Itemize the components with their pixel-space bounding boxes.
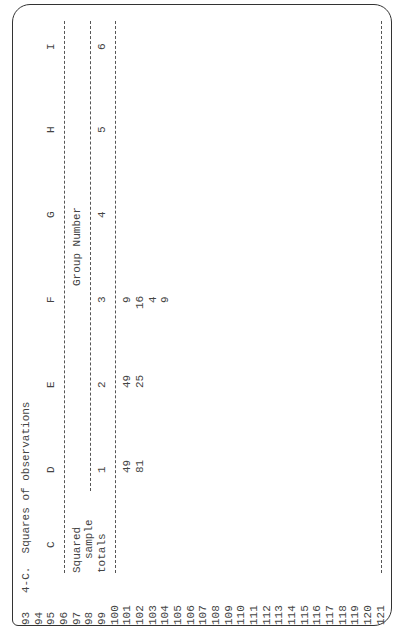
column-letter-i: I [45, 43, 57, 50]
group-number-3: 3 [96, 296, 108, 303]
row-label-line1: Squared [71, 527, 83, 573]
row-number: 94 [33, 612, 45, 625]
column-letter-g: G [45, 211, 57, 218]
rotated-spreadsheet-page: 93 94 95 96 97 98 99 100 101 102 103 104… [0, 0, 398, 631]
cell-group1-r1: 49 [121, 460, 133, 473]
row-number: 95 [45, 612, 57, 625]
row-number: 100 [109, 605, 121, 625]
row-number: 101 [121, 605, 133, 625]
row-number: 108 [210, 605, 222, 625]
column-letter-e: E [45, 381, 57, 388]
divider-group [90, 21, 91, 491]
column-letter-f: F [45, 296, 57, 303]
row-number: 117 [324, 605, 336, 625]
group-number-2: 2 [96, 381, 108, 388]
column-letter-d: D [45, 466, 57, 473]
row-number: 93 [20, 612, 32, 625]
cell-group2-r1: 49 [121, 375, 133, 388]
row-number: 114 [286, 605, 298, 625]
group-number-5: 5 [96, 126, 108, 133]
row-number: 105 [172, 605, 184, 625]
row-number: 111 [248, 605, 260, 625]
group-number-header: Group Number [71, 207, 83, 286]
group-number-4: 4 [96, 211, 108, 218]
row-number: 115 [299, 605, 311, 625]
row-number: 96 [58, 612, 70, 625]
row-number: 102 [134, 605, 146, 625]
row-number: 99 [96, 612, 108, 625]
row-number: 106 [185, 605, 197, 625]
group-number-6: 6 [96, 43, 108, 50]
divider-bottom [381, 21, 382, 573]
row-number: 107 [197, 605, 209, 625]
section-title: 4-C. Squares of observations [20, 402, 32, 593]
row-number: 109 [223, 605, 235, 625]
row-number: 121 [375, 605, 387, 625]
divider-top [64, 21, 65, 573]
row-number: 103 [147, 605, 159, 625]
column-letter-c: C [45, 541, 57, 548]
row-number: 113 [273, 605, 285, 625]
row-number: 118 [337, 605, 349, 625]
cell-group3-r3: 4 [147, 296, 159, 303]
row-number: 104 [159, 605, 171, 625]
row-number: 119 [349, 605, 361, 625]
row-number: 116 [311, 605, 323, 625]
row-number: 98 [83, 612, 95, 625]
column-letter-h: H [45, 126, 57, 133]
divider-header-bottom [115, 21, 116, 573]
cell-group3-r4: 9 [159, 296, 171, 303]
row-number: 110 [235, 605, 247, 625]
row-number: 97 [71, 612, 83, 625]
row-number: 112 [261, 605, 273, 625]
row-label-line3: totals [96, 533, 108, 573]
cell-group1-r2: 81 [134, 460, 146, 473]
row-label-line2: sample [83, 519, 95, 559]
row-number: 120 [362, 605, 374, 625]
cell-group3-r1: 9 [121, 296, 133, 303]
group-number-1: 1 [96, 466, 108, 473]
cell-group2-r2: 25 [134, 375, 146, 388]
cell-group3-r2: 16 [134, 296, 146, 309]
